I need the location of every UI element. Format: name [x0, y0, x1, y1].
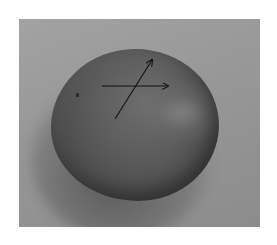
diagonal-arrow-icon [115, 60, 152, 119]
arrows-overlay [19, 19, 260, 227]
fruit-photo [19, 19, 260, 227]
